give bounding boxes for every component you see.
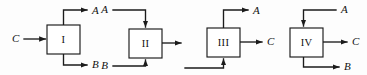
wire-block4-input-a: [304, 10, 337, 26]
block-group-2: II A B: [100, 3, 181, 71]
block-label-2: II: [142, 38, 150, 49]
signal-label-block2-a: A: [100, 3, 108, 15]
signal-label-block4-b: B: [344, 60, 351, 72]
block-group-3: III A C: [185, 4, 275, 68]
wire-block3-output-a: [224, 10, 249, 28]
block-label-3: III: [218, 37, 230, 48]
signal-label-block1-b: B: [92, 58, 99, 70]
block-group-1: I C A B: [12, 4, 99, 70]
signal-label-block4-c: C: [352, 35, 360, 47]
wire-block1-output-a: [64, 10, 88, 25]
signal-label-block3-c: C: [267, 35, 275, 47]
diagram-canvas: I C A B II A B III: [0, 0, 367, 75]
signal-label-block1-a: A: [91, 4, 99, 16]
block-diagram-svg: I C A B II A B III: [0, 0, 367, 75]
block-group-4: IV A C B: [290, 3, 360, 72]
block-label-1: I: [62, 34, 66, 45]
signal-label-block3-a: A: [252, 4, 260, 16]
wire-block4-output-b: [304, 57, 340, 67]
signal-label-block4-a: A: [340, 3, 348, 15]
wire-block1-output-b: [64, 54, 88, 65]
signal-label-block1-c: C: [12, 32, 20, 44]
wire-block3-input-bottom: [185, 59, 224, 68]
signal-label-block2-b: B: [101, 59, 108, 71]
wire-block2-input-b: [113, 60, 146, 66]
block-label-4: IV: [301, 37, 313, 48]
wire-block2-input-a: [113, 10, 146, 27]
